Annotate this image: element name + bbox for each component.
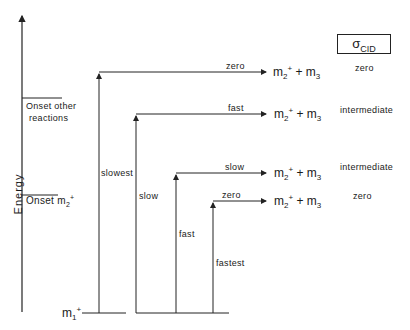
onset-other-label-2: reactions — [29, 113, 68, 123]
rate-label-slowest: slowest — [101, 168, 133, 178]
product-2: m2+ + m3 — [274, 106, 321, 123]
onset-m2-label: Onset m2+ — [26, 194, 74, 208]
rate-label-slow: slow — [139, 191, 158, 201]
sigma-cid-header: σCID — [337, 34, 391, 54]
energy-axis-label: Energy — [12, 174, 24, 215]
reactant-m1-label: m1+ — [62, 305, 81, 322]
rate-label-fast: fast — [179, 229, 195, 239]
dissoc-label-3: slow — [225, 162, 244, 172]
sigma-value-1: zero — [355, 63, 374, 73]
dissoc-label-2: fast — [228, 103, 244, 113]
sigma-value-3: intermediate — [340, 162, 393, 172]
dissoc-label-1: zero — [226, 61, 245, 71]
product-3: m2+ + m3 — [274, 165, 321, 182]
product-1: m2+ + m3 — [273, 64, 320, 81]
product-4: m2+ + m3 — [274, 193, 321, 210]
dissoc-label-4: zero — [222, 190, 241, 200]
onset-other-label-1: Onset other — [26, 101, 76, 111]
rate-label-fastest: fastest — [216, 258, 245, 268]
sigma-value-4: zero — [353, 191, 372, 201]
sigma-value-2: intermediate — [340, 105, 393, 115]
